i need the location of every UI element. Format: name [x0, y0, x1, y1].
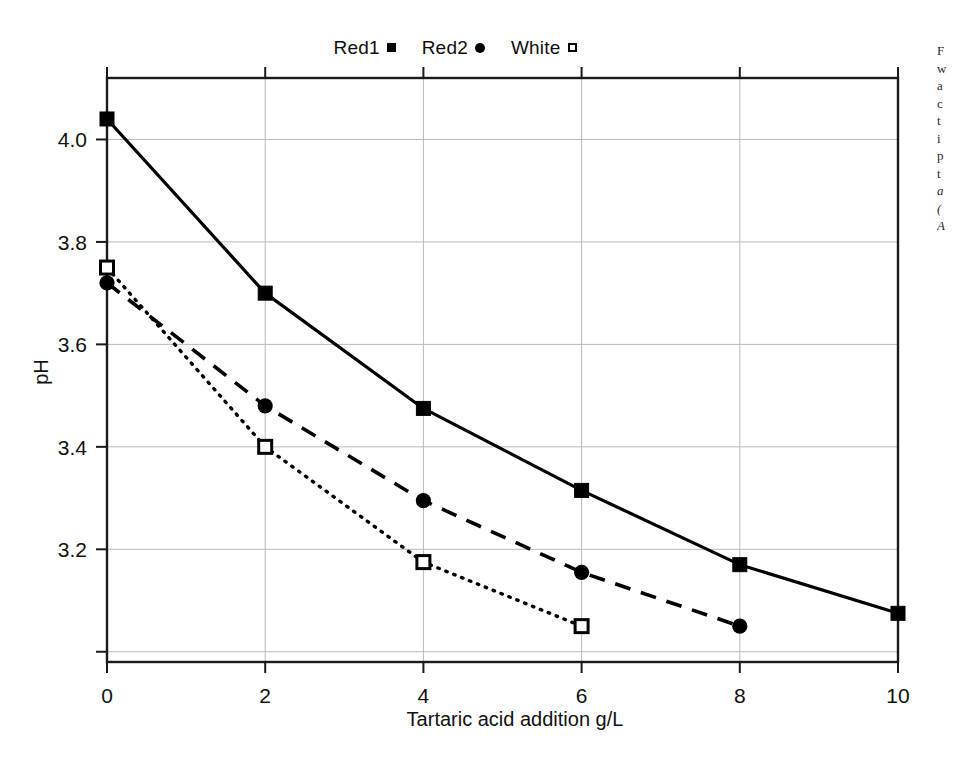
x-axis-tick-labels: 0246810 — [101, 684, 910, 707]
margin-text-line: w — [937, 60, 961, 78]
data-point-filled-square — [100, 112, 114, 126]
x-tick-label: 6 — [576, 684, 588, 707]
margin-text-line: i — [937, 130, 961, 148]
series-red1 — [100, 112, 905, 620]
data-point-open-square — [101, 261, 114, 274]
data-point-filled-circle — [732, 619, 747, 634]
data-point-filled-circle — [416, 493, 431, 508]
x-tick-label: 8 — [734, 684, 746, 707]
grid-horizontal — [107, 139, 898, 651]
x-tick-label: 0 — [101, 684, 113, 707]
margin-text-line: F — [937, 42, 961, 60]
y-tick-label: 3.8 — [58, 231, 87, 254]
series-line — [107, 119, 898, 613]
y-axis-tick-labels: 4.03.83.63.43.2 — [58, 128, 88, 561]
margin-text-line: p — [937, 147, 961, 165]
data-point-filled-circle — [258, 398, 273, 413]
y-tick-label: 3.4 — [58, 436, 88, 459]
data-point-open-square — [575, 620, 588, 633]
data-point-open-square — [259, 440, 272, 453]
x-tick-label: 2 — [259, 684, 271, 707]
data-point-filled-circle — [99, 275, 114, 290]
grid-vertical — [107, 78, 898, 662]
margin-caption-fragment: Fwactipta(A — [937, 42, 961, 235]
y-tick-label: 3.2 — [58, 538, 87, 561]
data-point-filled-circle — [574, 565, 589, 580]
margin-text-line: a — [937, 77, 961, 95]
y-tick-label: 3.6 — [58, 333, 87, 356]
y-tick-label: 4.0 — [58, 128, 87, 151]
data-point-filled-square — [891, 606, 905, 620]
data-point-filled-square — [258, 286, 272, 300]
margin-text-line: ( — [937, 200, 961, 218]
chart-figure: Red1 Red2 White 0246810 4.03.83.63.43.2 — [0, 0, 961, 763]
x-axis-title: Tartaric acid addition g/L — [407, 708, 624, 730]
x-axis-ticks — [107, 67, 898, 673]
margin-text-line: t — [937, 165, 961, 183]
margin-text-line: a — [937, 182, 961, 200]
x-tick-label: 4 — [418, 684, 430, 707]
margin-text-line: t — [937, 112, 961, 130]
y-axis-ticks — [96, 139, 107, 651]
data-point-filled-square — [575, 483, 589, 497]
margin-text-line: c — [937, 95, 961, 113]
y-axis-title: pH — [30, 359, 52, 385]
data-point-filled-square — [733, 558, 747, 572]
data-point-open-square — [417, 556, 430, 569]
x-tick-label: 10 — [886, 684, 909, 707]
plot-area: 0246810 4.03.83.63.43.2 Tartaric acid ad… — [0, 0, 930, 763]
data-point-filled-square — [416, 401, 430, 415]
axis-frame — [107, 78, 898, 662]
chart-svg: 0246810 4.03.83.63.43.2 Tartaric acid ad… — [0, 0, 930, 763]
data-series-layer — [99, 112, 905, 634]
margin-text-line: A — [937, 217, 961, 235]
